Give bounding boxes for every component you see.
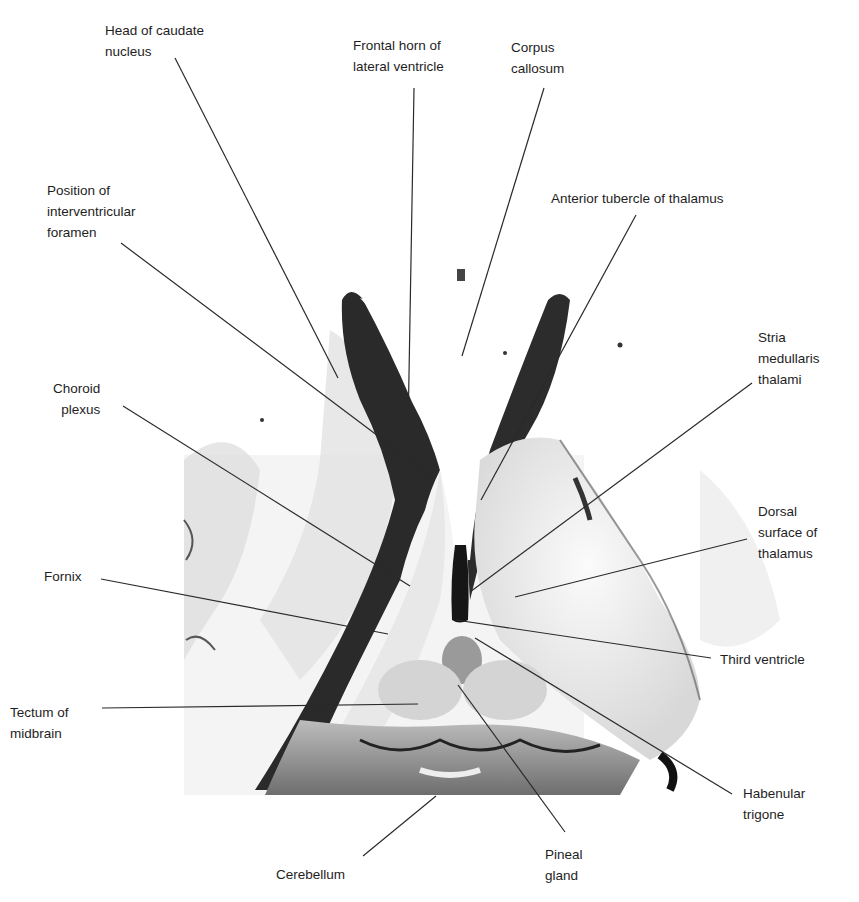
label-corpus-callosum: Corpus callosum xyxy=(511,37,564,79)
leader-line-corpus-callosum xyxy=(462,88,544,356)
leader-line-pineal-gland xyxy=(458,685,565,832)
label-pineal-gland: Pineal gland xyxy=(545,844,583,886)
label-tectum-of-midbrain: Tectum of midbrain xyxy=(10,702,69,744)
label-third-ventricle: Third ventricle xyxy=(720,649,805,670)
anatomy-figure: Head of caudate nucleus Frontal horn of … xyxy=(0,0,859,902)
label-fornix: Fornix xyxy=(44,566,82,587)
leader-line-choroid-plexus xyxy=(123,406,410,586)
label-frontal-horn-of-lateral-ventricle: Frontal horn of lateral ventricle xyxy=(353,35,444,77)
leader-line-anterior-tubercle-of-thalamus xyxy=(481,215,636,500)
leader-line-third-ventricle xyxy=(456,620,711,658)
leader-line-habenular-trigone xyxy=(475,638,732,794)
label-cerebellum: Cerebellum xyxy=(276,864,345,885)
label-anterior-tubercle-of-thalamus: Anterior tubercle of thalamus xyxy=(551,188,724,209)
leader-line-tectum-of-midbrain xyxy=(102,704,418,708)
label-head-of-caudate-nucleus: Head of caudate nucleus xyxy=(105,20,204,62)
label-stria-medullaris-thalami: Stria medullaris thalami xyxy=(758,327,820,390)
label-habenular-trigone: Habenular trigone xyxy=(743,783,805,825)
leader-line-stria-medullaris-thalami xyxy=(470,383,752,592)
leader-line-position-of-interventricular-foramen xyxy=(121,243,434,478)
leader-lines xyxy=(0,0,859,902)
leader-line-cerebellum xyxy=(363,796,436,856)
leader-line-frontal-horn-of-lateral-ventricle xyxy=(408,88,414,432)
leader-line-head-of-caudate-nucleus xyxy=(175,58,338,378)
label-dorsal-surface-of-thalamus: Dorsal surface of thalamus xyxy=(758,501,817,564)
leader-line-fornix xyxy=(101,579,388,634)
label-choroid-plexus: Choroid plexus xyxy=(53,378,100,420)
label-position-of-interventricular-foramen: Position of interventricular foramen xyxy=(47,180,136,243)
leader-line-dorsal-surface-of-thalamus xyxy=(515,539,747,597)
